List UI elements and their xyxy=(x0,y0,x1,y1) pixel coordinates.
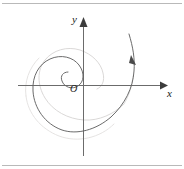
faded-outer-left-arc xyxy=(26,58,39,96)
direction-arrowhead xyxy=(129,55,136,65)
figure-container: y x O xyxy=(0,0,184,169)
origin-label: O xyxy=(70,84,77,94)
y-axis-arrowhead xyxy=(80,17,88,27)
x-axis-label: x xyxy=(167,88,172,99)
spiral-plot-svg xyxy=(0,0,184,169)
y-axis-label: y xyxy=(72,14,77,25)
faded-spiral-curve xyxy=(39,48,124,120)
